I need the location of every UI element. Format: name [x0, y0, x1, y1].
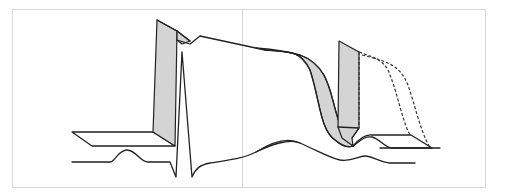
- second-upstroke-face: [338, 41, 359, 146]
- ecg-trace: [72, 52, 415, 177]
- post-beat-lower: [353, 137, 432, 148]
- dashed-prolonged-repolarization-2: [362, 55, 430, 148]
- dashed-prolonged-repolarization-1: [359, 52, 410, 135]
- action-potential-diagram: [0, 0, 512, 196]
- t-wave: [256, 140, 300, 152]
- upstroke-face: [153, 20, 177, 146]
